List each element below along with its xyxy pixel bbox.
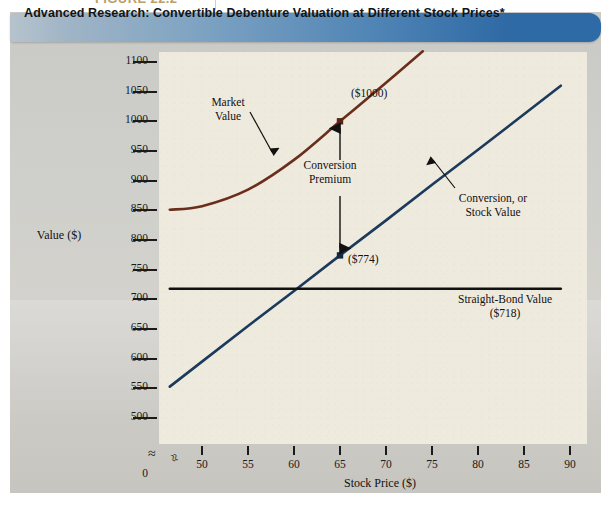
annotation-market-value: Market Value [193,95,263,123]
series-line-conversion-or-stock-value [170,86,561,387]
point-label-lower: ($774) [348,253,379,265]
data-point-marker [337,118,343,124]
point-label-upper: ($1000) [351,87,387,99]
figure-root: FIGURE 22.2 Advanced Research: Convertib… [0,0,613,505]
chart-curves [0,0,613,505]
annotation-conversion-premium: Conversion Premium [288,158,372,186]
annotation-straight-bond-value: Straight-Bond Value ($718) [440,292,570,320]
conversion-stock-value-leader [433,160,455,188]
data-point-marker [337,252,343,258]
annotation-conversion-stock-value: Conversion, or Stock Value [441,191,545,219]
